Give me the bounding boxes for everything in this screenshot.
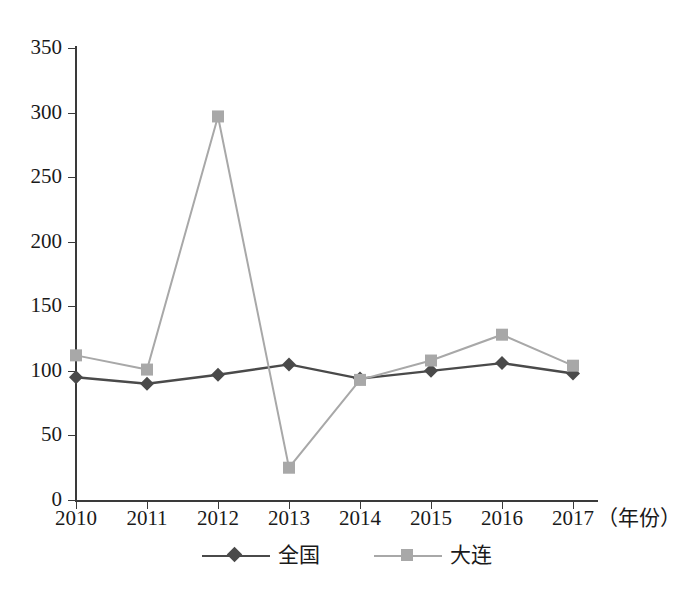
y-axis-line (75, 46, 77, 502)
x-axis-unit-label: （年份） (597, 508, 681, 529)
legend-item-dalian[interactable]: 大连 (374, 545, 492, 566)
series-dalian (70, 110, 579, 473)
data-point-marker (212, 110, 224, 122)
data-point-marker (211, 368, 225, 382)
data-point-marker (354, 374, 366, 386)
y-axis-tick (68, 177, 77, 178)
series-line (76, 363, 573, 384)
y-axis-tick (68, 306, 77, 307)
y-axis-tick (68, 48, 77, 49)
data-point-marker (141, 364, 153, 376)
data-point-marker (496, 329, 508, 341)
x-axis-tick-label: 2016 (462, 508, 542, 529)
y-axis-tick-label: 0 (6, 489, 62, 510)
y-axis-tick-label: 250 (6, 166, 62, 187)
data-point-marker (425, 355, 437, 367)
x-axis-tick-label: 2012 (178, 508, 258, 529)
legend-item-label: 全国 (278, 545, 320, 566)
legend-item-label: 大连 (450, 545, 492, 566)
y-axis-tick (68, 435, 77, 436)
line-chart: 050100150200250300350 201020112012201320… (0, 0, 693, 609)
data-point-marker (140, 377, 154, 391)
y-axis-tick (68, 113, 77, 114)
x-axis-tick-label: 2010 (36, 508, 116, 529)
y-axis-tick (68, 242, 77, 243)
legend-item-national[interactable]: 全国 (202, 545, 320, 566)
data-point-marker (566, 366, 580, 380)
y-axis-tick-label: 200 (6, 231, 62, 252)
y-axis-tick-label: 350 (6, 37, 62, 58)
y-axis-tick (68, 371, 77, 372)
y-axis-tick-label: 100 (6, 360, 62, 381)
data-point-marker (353, 372, 367, 386)
data-point-marker (495, 356, 509, 370)
x-axis-tick-label: 2011 (107, 508, 187, 529)
data-point-marker (424, 364, 438, 378)
series-national (69, 356, 580, 391)
x-axis-line (76, 500, 598, 502)
legend-swatch-icon (374, 547, 442, 565)
x-axis-tick-label: 2015 (391, 508, 471, 529)
x-axis-tick-label: 2014 (320, 508, 400, 529)
series-line (76, 116, 573, 467)
legend-swatch-icon (202, 547, 270, 565)
y-axis-tick-label: 150 (6, 295, 62, 316)
data-point-marker (282, 357, 296, 371)
y-axis-tick-label: 50 (6, 424, 62, 445)
y-axis-tick-label: 300 (6, 102, 62, 123)
x-axis-tick-label: 2013 (249, 508, 329, 529)
data-point-marker (567, 360, 579, 372)
chart-legend: 全国大连 (0, 545, 693, 566)
data-point-marker (283, 462, 295, 474)
